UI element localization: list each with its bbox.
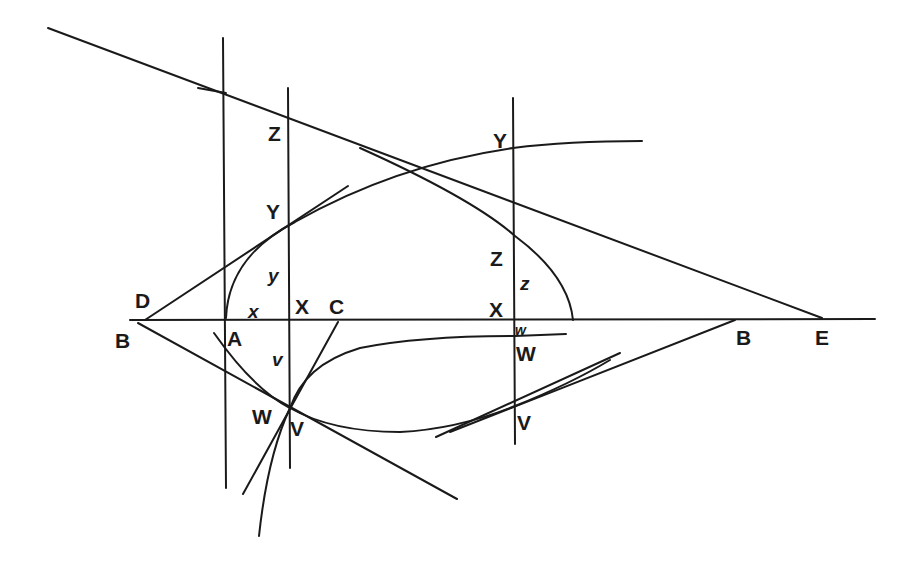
label-b-right: B bbox=[736, 326, 751, 349]
curve-lower-outer bbox=[214, 333, 610, 432]
label-v-small: v bbox=[272, 349, 284, 370]
diagram-canvas: D B A x X C y Y Z v W V Y Z z X w W V B … bbox=[0, 0, 919, 566]
label-e: E bbox=[815, 326, 829, 349]
label-v-left: V bbox=[290, 417, 304, 440]
label-d: D bbox=[135, 289, 150, 312]
label-w-left: W bbox=[252, 405, 272, 428]
tangent-line-top bbox=[48, 28, 822, 318]
label-w-small: w bbox=[515, 322, 527, 338]
vertical-line-a bbox=[223, 38, 226, 488]
label-w-right: W bbox=[516, 342, 536, 365]
label-z-small: z bbox=[519, 273, 530, 294]
label-z-right: Z bbox=[490, 247, 503, 270]
label-x-small: x bbox=[247, 301, 260, 322]
label-z-left: Z bbox=[268, 122, 281, 145]
curve-z bbox=[360, 148, 573, 320]
label-c: C bbox=[329, 295, 344, 318]
label-v-right: V bbox=[517, 411, 531, 434]
label-y-right: Y bbox=[493, 129, 507, 152]
tangent-line-d bbox=[145, 186, 348, 320]
label-y-small: y bbox=[267, 265, 280, 286]
label-x-left: X bbox=[295, 295, 309, 318]
label-b-left: B bbox=[115, 329, 130, 352]
label-a: A bbox=[227, 327, 242, 350]
geometry-figure: D B A x X C y Y Z v W V Y Z z X w W V B … bbox=[0, 0, 919, 566]
vertical-line-x-right bbox=[513, 98, 515, 444]
label-x-right: X bbox=[489, 298, 503, 321]
label-y-left: Y bbox=[266, 200, 280, 223]
